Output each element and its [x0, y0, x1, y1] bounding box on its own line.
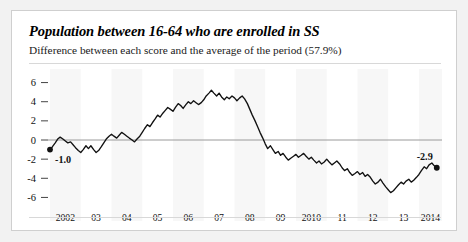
value-annotation: -1.0: [55, 154, 71, 165]
chart-figure: Population between 16-64 who are enrolle…: [0, 0, 468, 242]
y-axis-label: 6: [31, 77, 36, 88]
y-axis-label: -6: [27, 192, 36, 203]
value-annotation: -2.9: [417, 151, 433, 162]
year-band: [357, 69, 388, 221]
year-band: [419, 69, 442, 221]
y-axis-label: -4: [27, 173, 36, 184]
data-point-marker: [434, 165, 440, 171]
year-band: [50, 69, 81, 221]
y-axis-label: -2: [27, 154, 36, 165]
y-axis-label: 4: [31, 96, 37, 107]
year-bands: [50, 69, 442, 221]
year-band: [173, 69, 204, 221]
chart-card: Population between 16-64 who are enrolle…: [11, 10, 457, 231]
year-band: [111, 69, 142, 221]
data-point-marker: [47, 147, 53, 153]
year-band: [234, 69, 265, 221]
y-axis-label: 2: [31, 115, 36, 126]
line-chart-plot: 6420-2-4-6 -1.0-2.9 20020304050607080920…: [12, 11, 458, 232]
y-axis-label: 0: [31, 135, 36, 146]
year-band: [296, 69, 327, 221]
y-axis-labels: 6420-2-4-6: [27, 77, 37, 203]
footer-divider: [29, 217, 441, 218]
y-axis-ticks: [41, 83, 48, 198]
